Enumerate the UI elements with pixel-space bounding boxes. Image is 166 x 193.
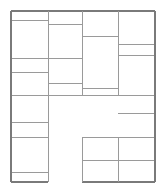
cell-c4-r4 <box>118 95 155 113</box>
cell-c1-r8 <box>11 172 48 182</box>
cell-c2-r1 <box>48 11 82 24</box>
cell-c4-r7 <box>118 160 155 182</box>
cell-c1-r3 <box>11 58 48 72</box>
cell-bottom-mid-lower <box>82 160 118 182</box>
cell-c4-r5 <box>118 113 155 137</box>
cell-c1-r1 <box>11 11 48 20</box>
cell-c1-r4 <box>11 72 48 95</box>
cell-c4-r3 <box>118 55 155 95</box>
cell-c3-r1 <box>82 11 118 36</box>
cell-c2-r4 <box>48 83 82 95</box>
cell-c1-r5 <box>11 95 48 122</box>
diagram-root <box>0 0 166 193</box>
cell-c1-r6 <box>11 122 48 137</box>
cell-c3-r2 <box>82 36 118 88</box>
cell-c4-r6 <box>118 137 155 160</box>
cell-bottom-mid-upper <box>82 137 118 160</box>
cell-c4-r2 <box>118 44 155 55</box>
cell-c1-r7 <box>11 137 48 172</box>
layout-diagram <box>0 0 166 193</box>
cell-c4-r1 <box>118 11 155 44</box>
cell-c3-r3 <box>82 88 118 95</box>
cell-c2-r3 <box>48 58 82 83</box>
cell-c2-r2 <box>48 24 82 58</box>
cell-c1-r2 <box>11 20 48 58</box>
